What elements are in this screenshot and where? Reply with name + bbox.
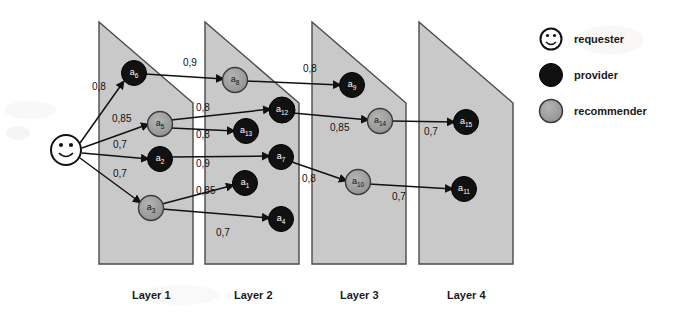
- edge-a2-a7: [171, 156, 270, 157]
- node-label-sub: 5: [161, 123, 165, 130]
- edge-weight: 0,7: [392, 191, 406, 202]
- node-a14[interactable]: a14: [368, 109, 393, 134]
- node-a10[interactable]: a10: [346, 170, 371, 195]
- node-label-sub: 2: [161, 158, 165, 165]
- legend-label-provider: provider: [574, 69, 619, 81]
- edge-weight: 0,8: [303, 63, 317, 74]
- edge-weight: 0,85: [330, 122, 350, 133]
- node-a2[interactable]: a2: [148, 147, 173, 172]
- diagram-canvas: 0,8 0,85 0,7 0,7 0,9 0,8 0,8 0,9 0,85 0,…: [0, 0, 691, 331]
- legend-requester-eye-left: [546, 34, 549, 37]
- node-a12[interactable]: a12: [269, 97, 295, 123]
- edge-a14-a15: [391, 121, 455, 122]
- node-label-sub: 9: [353, 84, 357, 91]
- node-label-sub: 13: [245, 130, 253, 137]
- node-a7[interactable]: a7: [269, 145, 294, 170]
- node-requester[interactable]: [51, 135, 81, 165]
- legend-label-requester: requester: [574, 33, 625, 45]
- node-a4[interactable]: a4: [269, 207, 294, 232]
- node-a11[interactable]: a11: [452, 177, 477, 202]
- node-a9[interactable]: a9: [340, 73, 365, 98]
- edge-weight: 0,7: [113, 139, 127, 150]
- edge-weight: 0,7: [113, 168, 127, 179]
- edge-weight: 0,8: [92, 81, 106, 92]
- edge-weight: 0,9: [196, 158, 210, 169]
- requester-eye-right: [69, 143, 73, 147]
- node-a8[interactable]: a8: [223, 68, 248, 93]
- edge-weight: 0,85: [196, 185, 216, 196]
- node-label-sub: 8: [236, 79, 240, 86]
- requester-icon: [541, 29, 562, 50]
- node-label-sub: 3: [152, 207, 156, 214]
- layered-network-diagram: 0,8 0,85 0,7 0,7 0,9 0,8 0,8 0,9 0,85 0,…: [0, 0, 691, 331]
- node-a1[interactable]: a1: [233, 171, 258, 196]
- node-a3[interactable]: a3: [139, 196, 164, 221]
- legend-label-recommender: recommender: [574, 105, 647, 117]
- edge-weight: 0,9: [183, 57, 197, 68]
- edge-weight: 0,8: [196, 129, 210, 140]
- node-label-sub: 15: [465, 121, 473, 128]
- node-label-sub: 11: [463, 188, 470, 195]
- node-label-sub: 14: [379, 120, 387, 127]
- requester-eye-left: [59, 143, 63, 147]
- layer-caption-4: Layer 4: [447, 289, 486, 301]
- edge-weight: 0,7: [216, 227, 230, 238]
- node-label-sub: 12: [281, 109, 289, 116]
- layer-caption-2: Layer 2: [234, 289, 273, 301]
- node-label-sub: 10: [357, 181, 365, 188]
- node-label-sub: 4: [282, 218, 286, 225]
- edge-weight: 0,7: [424, 126, 438, 137]
- node-a13[interactable]: a13: [234, 119, 259, 144]
- layer-caption-1: Layer 1: [132, 289, 171, 301]
- node-a15[interactable]: a15: [454, 110, 479, 135]
- node-a5[interactable]: a5: [148, 112, 173, 137]
- edge-weight: 0,8: [302, 173, 316, 184]
- edge-weight: 0,85: [112, 113, 132, 124]
- node-label-sub: 1: [246, 182, 250, 189]
- provider-icon: [540, 64, 563, 87]
- node-a6[interactable]: a6: [122, 61, 147, 86]
- node-label-sub: 7: [282, 156, 286, 163]
- node-label-sub: 6: [135, 72, 139, 79]
- edge-weight: 0,8: [196, 102, 210, 113]
- legend-requester-eye-right: [553, 34, 556, 37]
- layer-caption-3: Layer 3: [340, 289, 379, 301]
- recommender-icon: [540, 100, 563, 123]
